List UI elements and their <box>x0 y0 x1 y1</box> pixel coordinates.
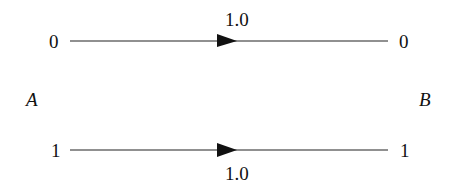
probability-label-bottom: 1.0 <box>225 164 249 183</box>
node-label-a: A <box>26 90 38 109</box>
arrowhead-icon <box>217 34 237 47</box>
output-symbol-1: 1 <box>400 141 410 160</box>
node-label-b: B <box>419 90 431 109</box>
output-symbol-0: 0 <box>399 32 409 51</box>
input-symbol-1: 1 <box>51 141 61 160</box>
probability-label-top: 1.0 <box>225 10 249 29</box>
input-symbol-0: 0 <box>49 32 59 51</box>
arrowhead-icon <box>217 143 237 157</box>
